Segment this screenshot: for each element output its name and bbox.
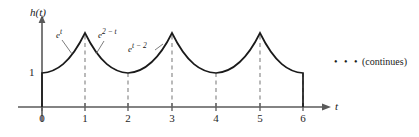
x-tick-label-0: 0 (34, 113, 50, 124)
y-value-label-one: 1 (29, 67, 35, 78)
curve-label-seg-3: et − 2 (128, 45, 147, 54)
x-tick-label-3: 3 (164, 113, 180, 124)
x-tick-label-2: 2 (120, 113, 136, 124)
y-axis-label: h(t) (30, 7, 46, 18)
x-axis (18, 103, 331, 110)
continues-text: (continues) (362, 56, 407, 67)
x-tick-label-4: 4 (208, 113, 224, 124)
curve-label-seg-2: e2 − t (98, 31, 117, 40)
curve-label-seg-1-exponent: t (60, 27, 62, 36)
curve-label-seg-1: et (56, 31, 62, 40)
x-tick-label-6: 6 (295, 113, 311, 124)
ellipsis-dots-icon: • • • (334, 56, 360, 67)
figure-canvas: h(t) t 1 0 1 2 3 4 5 6 et e2 − t et − 2 … (0, 0, 419, 137)
curve-label-seg-3-exponent: t − 2 (132, 41, 147, 50)
x-tick-label-1: 1 (77, 113, 93, 124)
continues-annotation: • • • (continues) (334, 57, 407, 67)
x-tick-label-5: 5 (252, 113, 268, 124)
curve-label-seg-2-exponent: 2 − t (102, 27, 117, 36)
x-axis-label: t (335, 101, 338, 112)
